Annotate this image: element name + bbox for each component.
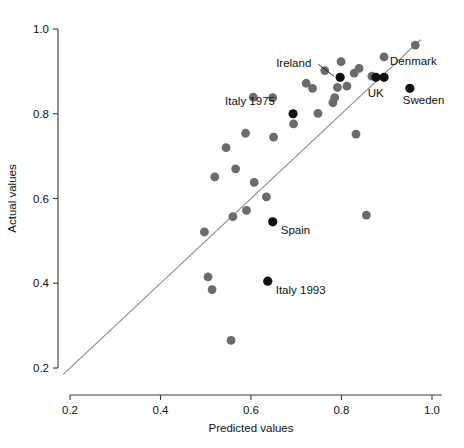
data-point	[241, 129, 250, 138]
data-point	[210, 172, 219, 181]
y-tick-label: 0.4	[33, 277, 50, 289]
data-point	[231, 164, 240, 173]
data-point	[380, 53, 389, 62]
scatter-plot-figure: IrelandDenmarkSwedenItaly 1975SpainItaly…	[0, 0, 464, 448]
point-label: Spain	[281, 224, 310, 236]
data-point	[350, 69, 359, 78]
data-point	[362, 211, 371, 220]
x-tick-label: 0.4	[153, 404, 170, 416]
data-point	[269, 133, 278, 142]
labelled-data-point	[268, 217, 277, 226]
data-point	[308, 84, 317, 93]
labelled-data-point	[379, 73, 388, 82]
data-point	[333, 83, 342, 92]
data-point	[242, 206, 251, 215]
data-point	[352, 130, 361, 139]
data-point	[229, 212, 238, 221]
labelled-data-point	[405, 84, 414, 93]
data-point	[329, 98, 338, 107]
point-label: Denmark	[390, 55, 437, 67]
x-tick-label: 0.2	[62, 404, 78, 416]
data-point	[343, 82, 352, 91]
y-axis-group: 0.20.40.60.81.0 Actual values	[6, 23, 58, 374]
point-label: Italy 1993	[276, 284, 326, 296]
y-tick-label: 0.2	[33, 362, 49, 374]
y-axis-ticks: 0.20.40.60.81.0	[33, 23, 58, 374]
x-axis-ticks: 0.20.40.60.81.0	[62, 395, 440, 416]
point-label: Italy 1975	[225, 95, 275, 107]
y-tick-label: 0.6	[33, 193, 49, 205]
point-label: Sweden	[403, 94, 445, 106]
data-point	[204, 272, 213, 281]
y-tick-label: 1.0	[33, 23, 49, 35]
data-point	[337, 57, 346, 66]
labelled-data-point	[288, 109, 297, 118]
point-label: Ireland	[276, 57, 311, 69]
chart-canvas: IrelandDenmarkSwedenItaly 1975SpainItaly…	[0, 0, 464, 448]
y-axis-title: Actual values	[6, 164, 18, 233]
data-point	[200, 228, 209, 237]
x-axis-group: 0.20.40.60.81.0 Predicted values	[62, 395, 442, 434]
point-label: UK	[368, 87, 384, 99]
y-tick-label: 0.8	[33, 108, 49, 120]
data-point	[227, 336, 236, 345]
data-point	[222, 143, 231, 152]
x-tick-label: 0.8	[334, 404, 350, 416]
x-axis-title: Predicted values	[208, 422, 293, 434]
data-point	[250, 178, 259, 187]
x-tick-label: 1.0	[424, 404, 440, 416]
x-tick-label: 0.6	[243, 404, 259, 416]
data-point	[411, 41, 420, 50]
labelled-data-point	[371, 73, 380, 82]
data-point	[262, 192, 271, 201]
data-point	[314, 109, 323, 118]
data-point	[289, 120, 298, 129]
labelled-data-point	[336, 73, 345, 82]
data-points-layer	[200, 41, 420, 345]
data-point	[208, 285, 217, 294]
labelled-data-point	[263, 277, 272, 286]
